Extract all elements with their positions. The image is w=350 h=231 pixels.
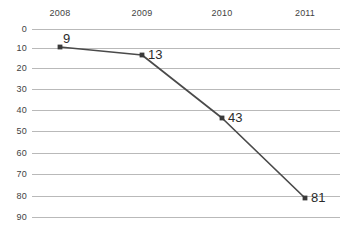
- data-label-2010: 43: [228, 110, 242, 125]
- series-line: [60, 47, 305, 198]
- data-label-2011: 81: [311, 190, 325, 205]
- data-label-2009: 13: [148, 47, 162, 62]
- series-plot: [0, 0, 350, 231]
- data-point-2011: [303, 196, 308, 201]
- data-point-2009: [140, 53, 145, 58]
- data-point-2008: [58, 45, 63, 50]
- line-chart: 2008 2009 2010 2011 0 10 20 30 40 50 60 …: [0, 0, 350, 231]
- data-label-2008: 9: [63, 31, 70, 46]
- data-point-2010: [220, 116, 225, 121]
